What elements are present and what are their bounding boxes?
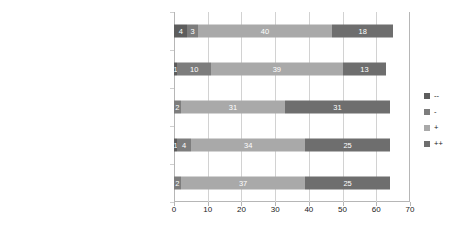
legend-swatch-icon	[424, 141, 430, 147]
x-axis-tick-label: 50	[338, 205, 347, 214]
y-axis-tick-mark	[170, 126, 174, 127]
bar-segment: 31	[285, 101, 390, 114]
legend-label: +	[434, 124, 438, 132]
bar-segment: 3	[187, 25, 197, 38]
x-axis-tick-label: 0	[172, 205, 176, 214]
x-axis-tick-label: 30	[271, 205, 280, 214]
bar-segment: 4	[177, 139, 190, 152]
bar-row: 23725	[174, 177, 390, 190]
stacked-bar-chart: 010203040506070 (a) innovative solution(…	[0, 0, 462, 230]
legend-swatch-icon	[424, 93, 430, 99]
bar-segment: 25	[305, 177, 389, 190]
bar-segment: 34	[191, 139, 306, 152]
legend-label: -	[434, 108, 437, 116]
x-axis-tick-label: 60	[372, 205, 381, 214]
bar-row: 143425	[174, 139, 390, 152]
x-axis-tick-label: 40	[304, 205, 313, 214]
bar-segment: 25	[305, 139, 389, 152]
legend-item[interactable]: ++	[424, 136, 460, 152]
x-axis-tick-label: 20	[237, 205, 246, 214]
bar-segment: 37	[181, 177, 306, 190]
legend-item[interactable]: +	[424, 120, 460, 136]
bar-row: 1103913	[174, 63, 386, 76]
bar-row: 434018	[174, 25, 393, 38]
y-axis-tick-mark	[170, 50, 174, 51]
legend-item[interactable]: --	[424, 88, 460, 104]
bar-segment: 4	[174, 25, 187, 38]
x-axis-tick-label: 70	[406, 205, 415, 214]
bar-row: 23131	[174, 101, 390, 114]
legend-label: ++	[434, 140, 443, 148]
bar-segment: 2	[174, 177, 181, 190]
y-axis-tick-mark	[170, 164, 174, 165]
legend-swatch-icon	[424, 125, 430, 131]
bar-segment: 2	[174, 101, 181, 114]
legend-label: --	[434, 92, 439, 100]
bar-segment: 10	[177, 63, 211, 76]
legend-swatch-icon	[424, 109, 430, 115]
bar-segment: 40	[198, 25, 333, 38]
x-axis-tick-label: 10	[203, 205, 212, 214]
bar-segment: 39	[211, 63, 342, 76]
y-axis-tick-mark	[170, 12, 174, 13]
bar-segment: 31	[181, 101, 286, 114]
bar-segment: 18	[332, 25, 393, 38]
chart-legend: ---+++	[424, 88, 460, 152]
legend-item[interactable]: -	[424, 104, 460, 120]
y-axis-tick-mark	[170, 88, 174, 89]
y-axis-tick-mark	[170, 202, 174, 203]
bar-segment: 13	[343, 63, 387, 76]
